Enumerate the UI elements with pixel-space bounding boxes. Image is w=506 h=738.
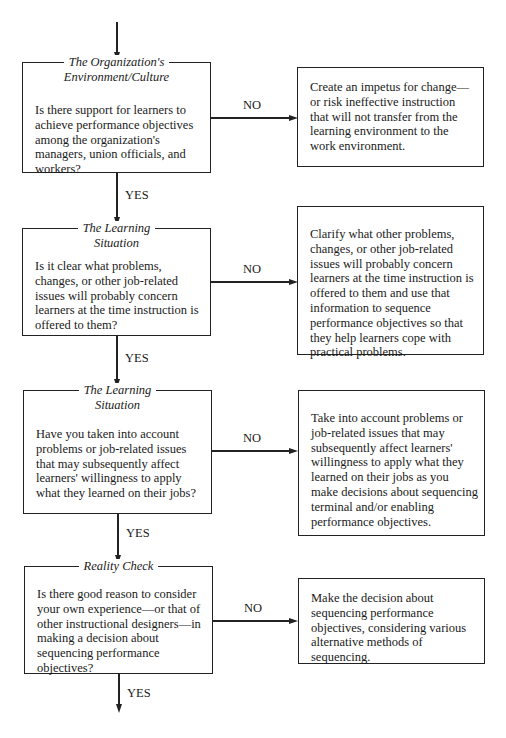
action-text: Make the decision about sequencing perfo… <box>311 591 478 665</box>
decision-question: Is it clear what problems, changes, or o… <box>35 259 204 333</box>
decision-box-learning-situation-willingness: The Learning Situation Have you taken in… <box>23 390 212 514</box>
yes-label: YES <box>125 188 149 203</box>
decision-question: Is there good reason to consider your ow… <box>37 587 206 676</box>
yes-label: YES <box>127 686 151 701</box>
action-text: Clarify what other problems, changes, or… <box>310 227 477 360</box>
yes-label: YES <box>126 526 150 541</box>
decision-title: Reality Check <box>25 559 212 574</box>
decision-box-organization-culture: The Organization's Environment/Culture I… <box>22 62 211 173</box>
no-arrowhead-icon <box>289 618 298 624</box>
no-label: NO <box>243 431 261 446</box>
yes-arrow-line <box>116 336 118 381</box>
decision-question: Is there support for learners to achieve… <box>35 103 204 177</box>
decision-title: The Learning Situation <box>24 383 211 413</box>
action-box-make-decision: Make the decision about sequencing perfo… <box>298 578 485 664</box>
decision-box-learning-situation-problems: The Learning Situation Is it clear what … <box>22 228 211 336</box>
no-arrow-line <box>211 281 291 283</box>
action-text: Take into account problems or job-relate… <box>311 411 478 529</box>
no-label: NO <box>243 98 261 113</box>
action-box-take-into-account: Take into account problems or job-relate… <box>298 390 485 536</box>
decision-title: The Organization's Environment/Culture <box>23 55 210 85</box>
no-arrow-line <box>211 117 291 119</box>
yes-arrow-line <box>118 674 120 706</box>
action-box-clarify: Clarify what other problems, changes, or… <box>297 206 484 355</box>
entry-arrow-line <box>116 22 118 54</box>
no-arrowhead-icon <box>289 448 298 454</box>
yes-label: YES <box>125 351 149 366</box>
action-text: Create an impetus for change—or risk ine… <box>310 80 477 154</box>
yes-arrow-line <box>117 514 119 557</box>
decision-question: Have you taken into account problems or … <box>36 427 205 501</box>
yes-arrow-line <box>116 173 118 219</box>
no-arrow-line <box>212 450 291 452</box>
decision-title: The Learning Situation <box>23 221 210 251</box>
action-box-impetus: Create an impetus for change—or risk ine… <box>297 67 484 167</box>
no-arrow-line <box>213 620 291 622</box>
yes-arrowhead-icon <box>116 704 122 713</box>
decision-box-reality-check: Reality Check Is there good reason to co… <box>24 566 213 674</box>
no-label: NO <box>244 601 262 616</box>
no-label: NO <box>243 262 261 277</box>
